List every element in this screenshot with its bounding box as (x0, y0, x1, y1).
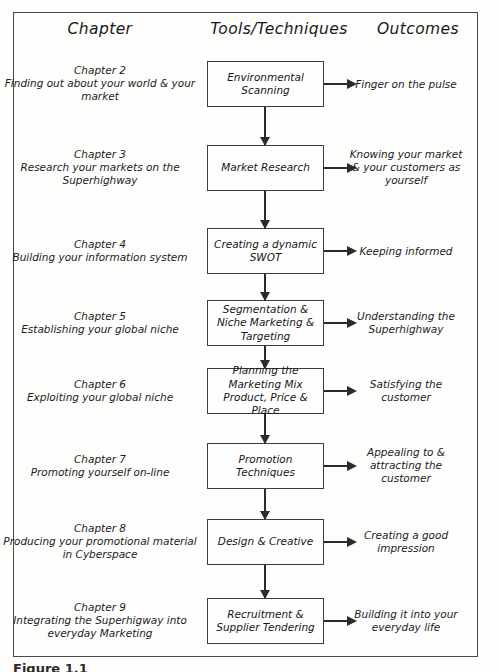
outcome-arrow (324, 620, 348, 622)
outcome-arrow (324, 83, 348, 85)
outcome-cell: Appealing to & attracting the customer (349, 446, 463, 486)
flow-connector (264, 191, 266, 228)
chapter-title: Chapter 9 (0, 601, 200, 614)
column-header-tools-techniques: Tools/Techniques (200, 20, 358, 38)
outcome-cell: Creating a good impression (349, 529, 463, 555)
flow-connector (264, 414, 266, 443)
chapter-cell: Chapter 3Research your markets on the Su… (0, 148, 200, 188)
chapter-description: Integrating the Superhigway into everyda… (0, 614, 200, 640)
column-header-outcomes: Outcomes (358, 20, 478, 38)
flow-connector (264, 274, 266, 300)
chapter-description: Promoting yourself on-line (0, 466, 200, 479)
chapter-cell: Chapter 4Building your information syste… (0, 238, 200, 264)
process-box: Segmentation & Niche Marketing & Targeti… (207, 300, 324, 346)
chapter-title: Chapter 3 (0, 148, 200, 161)
chapter-title: Chapter 4 (0, 238, 200, 251)
process-box: Design & Creative (207, 519, 324, 565)
outcome-cell: Satisfying the customer (349, 378, 463, 404)
outcome-arrow (324, 250, 348, 252)
process-box: Recruitment & Supplier Tendering (207, 598, 324, 644)
chapter-description: Exploiting your global niche (0, 391, 200, 404)
chapter-title: Chapter 5 (0, 310, 200, 323)
process-box: Creating a dynamic SWOT (207, 228, 324, 274)
outcome-cell: Finger on the pulse (349, 78, 463, 91)
outcome-cell: Building it into your everyday life (349, 608, 463, 634)
outcome-arrow (324, 465, 348, 467)
figure-caption: Figure 1.1 (13, 661, 88, 672)
flow-connector (264, 565, 266, 598)
outcome-cell: Keeping informed (349, 245, 463, 258)
chapter-title: Chapter 6 (0, 378, 200, 391)
column-header-chapter: Chapter (0, 20, 200, 38)
chapter-cell: Chapter 6Exploiting your global niche (0, 378, 200, 404)
chapter-description: Building your information system (0, 251, 200, 264)
process-box: Planning the Marketing Mix Product, Pric… (207, 368, 324, 414)
chapter-title: Chapter 8 (0, 522, 200, 535)
process-box: Market Research (207, 145, 324, 191)
chapter-cell: Chapter 9Integrating the Superhigway int… (0, 601, 200, 641)
process-box: Promotion Techniques (207, 443, 324, 489)
outcome-arrow (324, 322, 348, 324)
chapter-description: Research your markets on the Superhighwa… (0, 161, 200, 187)
chapter-title: Chapter 2 (0, 64, 200, 77)
flow-connector (264, 107, 266, 145)
scanned-page: Chapter Tools/Techniques Outcomes Chapte… (0, 0, 499, 672)
chapter-description: Producing your promotional material in C… (0, 535, 200, 561)
chapter-cell: Chapter 7Promoting yourself on-line (0, 453, 200, 479)
chapter-cell: Chapter 2Finding out about your world & … (0, 64, 200, 104)
chapter-title: Chapter 7 (0, 453, 200, 466)
chapter-description: Finding out about your world & your mark… (0, 77, 200, 103)
outcome-cell: Understanding the Superhighway (349, 310, 463, 336)
outcome-arrow (324, 390, 348, 392)
outcome-cell: Knowing your market & your customers as … (349, 148, 463, 188)
outcome-arrow (324, 541, 348, 543)
outcome-arrow (324, 167, 348, 169)
chapter-description: Establishing your global niche (0, 323, 200, 336)
process-box: Environmental Scanning (207, 61, 324, 107)
flow-connector (264, 489, 266, 519)
chapter-cell: Chapter 5Establishing your global niche (0, 310, 200, 336)
chapter-cell: Chapter 8Producing your promotional mate… (0, 522, 200, 562)
